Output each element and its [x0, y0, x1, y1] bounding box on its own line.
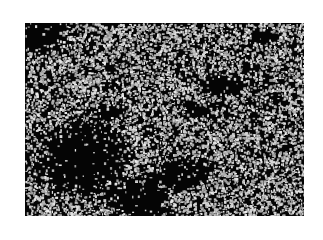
cell-field-canvas — [25, 23, 304, 216]
micrograph-image — [25, 23, 304, 216]
